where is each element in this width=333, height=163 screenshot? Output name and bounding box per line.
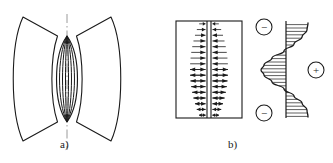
plus-middle-icon: +	[308, 62, 324, 78]
polarity-markers: −+−	[256, 19, 324, 121]
minus-bottom-icon: −	[256, 105, 272, 121]
panel-a	[13, 14, 121, 150]
caption-panel-a: a)	[60, 138, 69, 150]
minus-top-icon: −	[256, 19, 272, 35]
panel-b: −+−	[176, 19, 324, 121]
caption-panel-b: b)	[228, 138, 237, 150]
plus-middle-label: +	[313, 64, 319, 76]
field-region-frame	[176, 21, 242, 118]
left-wing-outline	[13, 17, 57, 141]
figure-canvas: −+−	[0, 0, 333, 163]
right-wing-outline	[77, 17, 121, 141]
minus-top-label: −	[261, 21, 267, 33]
minus-bottom-label: −	[261, 107, 267, 119]
